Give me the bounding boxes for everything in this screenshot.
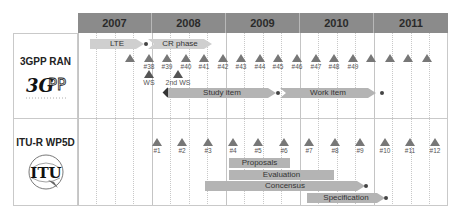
meeting-label: #10 xyxy=(375,147,395,154)
grid-line xyxy=(115,33,116,206)
meeting-label: #1 xyxy=(147,147,167,154)
meeting-marker xyxy=(348,54,358,62)
meeting-marker xyxy=(380,138,390,146)
activity-consensus: Concensus xyxy=(205,181,365,191)
year-2008: 2008 xyxy=(152,13,226,33)
right-border xyxy=(447,33,448,206)
meeting-marker xyxy=(292,54,302,62)
meeting-label: #41 xyxy=(194,63,214,70)
meeting-label: #47 xyxy=(306,63,326,70)
meeting-marker xyxy=(253,138,263,146)
meeting-marker xyxy=(330,138,340,146)
3gpp-logo-icon: 3G PP xyxy=(24,72,68,100)
phase-study-item: Study item xyxy=(168,88,276,98)
meeting-label: #44 xyxy=(250,63,270,70)
meeting-label: #8 xyxy=(325,147,345,154)
meeting-marker xyxy=(430,138,440,146)
milestone-dot xyxy=(380,91,384,95)
itu-logo-icon: ITU xyxy=(24,150,68,194)
phase-cr: CR phase xyxy=(148,39,212,49)
meeting-marker xyxy=(366,54,376,62)
meeting-label: #12 xyxy=(425,147,445,154)
meeting-marker xyxy=(255,54,265,62)
meeting-label: #6 xyxy=(274,147,294,154)
meeting-label: #45 xyxy=(268,63,288,70)
year-2007: 2007 xyxy=(78,13,152,33)
meeting-label: #42 xyxy=(213,63,233,70)
org-title-itu: ITU-R WP5D xyxy=(13,137,78,148)
meeting-marker xyxy=(199,54,209,62)
phase-work-item: Work item xyxy=(280,88,376,98)
workshop-marker xyxy=(173,70,183,78)
meeting-marker xyxy=(203,138,213,146)
meeting-label: #3 xyxy=(198,147,218,154)
meeting-label: #48 xyxy=(324,63,344,70)
meeting-marker xyxy=(152,138,162,146)
meeting-marker xyxy=(279,138,289,146)
meeting-label: #2 xyxy=(172,147,192,154)
meeting-marker xyxy=(405,138,415,146)
meeting-label: #11 xyxy=(400,147,420,154)
milestone-dot xyxy=(144,42,148,46)
meeting-marker xyxy=(125,54,135,62)
meeting-label: #46 xyxy=(287,63,307,70)
meeting-label: #49 xyxy=(343,63,363,70)
year-2011: 2011 xyxy=(374,13,448,33)
workshop-marker xyxy=(144,70,154,78)
meeting-marker xyxy=(236,54,246,62)
svg-text:PP: PP xyxy=(48,76,66,94)
meeting-marker xyxy=(304,138,314,146)
meeting-marker xyxy=(403,54,413,62)
meeting-label: #4 xyxy=(223,147,243,154)
year-2009: 2009 xyxy=(226,13,300,33)
grid-line xyxy=(78,33,79,206)
meeting-marker xyxy=(355,138,365,146)
meeting-label: #7 xyxy=(299,147,319,154)
meeting-marker xyxy=(177,138,187,146)
year-header: 2007 2008 2009 2010 2011 xyxy=(78,13,448,33)
meeting-label: #9 xyxy=(350,147,370,154)
workshop-label: WS xyxy=(139,79,159,86)
year-2010: 2010 xyxy=(300,13,374,33)
milestone-dot xyxy=(364,184,368,188)
meeting-marker xyxy=(181,54,191,62)
activity-evaluation: Evaluation xyxy=(229,170,334,180)
milestone-dot xyxy=(384,196,388,200)
meeting-label: #39 xyxy=(157,63,177,70)
meeting-marker xyxy=(144,54,154,62)
svg-text:ITU: ITU xyxy=(30,164,61,182)
workshop-label: 2nd WS xyxy=(163,79,193,86)
meeting-marker xyxy=(311,54,321,62)
meeting-label: #5 xyxy=(248,147,268,154)
meeting-label: #40 xyxy=(176,63,196,70)
meeting-label: #43 xyxy=(231,63,251,70)
milestone-dot xyxy=(276,91,280,95)
bottom-border xyxy=(13,205,448,206)
meeting-marker xyxy=(385,54,395,62)
meeting-marker xyxy=(162,54,172,62)
meeting-marker xyxy=(422,54,432,62)
phase-lte: LTE xyxy=(90,39,144,49)
meeting-marker xyxy=(329,54,339,62)
meeting-marker xyxy=(218,54,228,62)
activity-proposals: Proposals xyxy=(229,158,290,168)
meeting-marker xyxy=(228,138,238,146)
row-divider xyxy=(13,118,448,119)
activity-specification: Specification xyxy=(307,193,385,203)
grid-line xyxy=(96,33,97,206)
meeting-label: #38 xyxy=(139,63,159,70)
meeting-marker xyxy=(273,54,283,62)
org-title-3gpp: 3GPP RAN xyxy=(13,56,78,67)
